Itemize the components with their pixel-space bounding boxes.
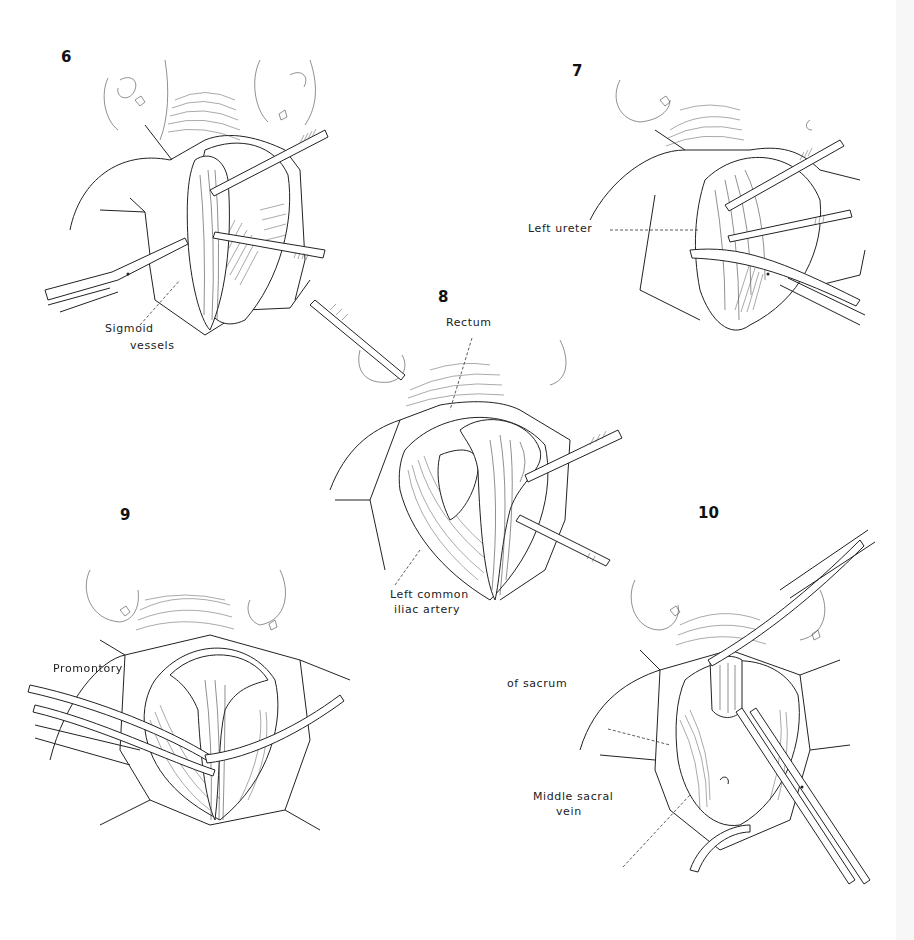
- label-of-sacrum: of sacrum: [507, 677, 567, 691]
- panel-6: 6 Sigmoid vessels: [0, 0, 330, 360]
- surgical-illustration: [0, 0, 330, 360]
- label-vessels: vessels: [130, 339, 175, 353]
- surgical-illustration: [20, 480, 380, 880]
- label-left-common: Left common: [390, 588, 469, 602]
- label-vein: vein: [556, 805, 582, 819]
- label-promontory: Promontory: [53, 662, 123, 676]
- label-sigmoid: Sigmoid: [105, 322, 154, 336]
- label-left-ureter: Left ureter: [528, 222, 592, 236]
- label-iliac-artery: iliac artery: [394, 603, 460, 617]
- label-middle-sacral: Middle sacral: [533, 790, 613, 804]
- panel-9: 9: [20, 480, 380, 880]
